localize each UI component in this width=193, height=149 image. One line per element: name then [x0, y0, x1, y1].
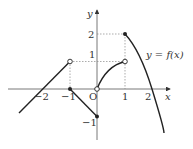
endpoints	[68, 32, 128, 119]
origin-label: O	[89, 91, 97, 102]
x-axis-label: x	[165, 91, 171, 102]
x-tick: −1	[61, 91, 76, 102]
open-point	[68, 59, 73, 64]
piece-left-line	[19, 62, 70, 114]
x-tick: 1	[122, 91, 128, 102]
open-point	[123, 59, 128, 64]
y-tick: 2	[88, 29, 94, 40]
y-tick: 1	[89, 49, 95, 60]
piece-arc	[97, 62, 125, 90]
graph: y x O −2 −1 1 2 2 1 −1 y = f(x)	[0, 0, 193, 149]
function-label: y = f(x)	[145, 49, 184, 60]
y-axis-label: y	[86, 8, 93, 19]
x-tick: 2	[145, 91, 151, 102]
y-tick: −1	[82, 117, 97, 128]
guide-lines	[70, 34, 125, 89]
x-tick: −2	[34, 91, 49, 102]
filled-point	[123, 32, 127, 36]
